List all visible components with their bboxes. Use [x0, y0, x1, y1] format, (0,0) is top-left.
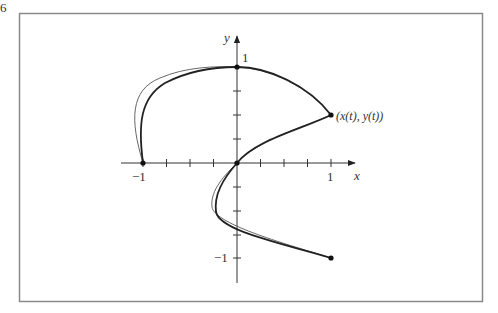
parametric-curve-figure: x y −1 1 1 −1 (x(t), y(t)) [0, 0, 498, 313]
point-neg1-0 [140, 160, 145, 165]
y-tick-label-neg1: −1 [214, 250, 228, 265]
point-1-neg1 [328, 255, 333, 260]
point-label: (x(t), y(t)) [336, 109, 383, 123]
point-origin [234, 160, 239, 165]
x-tick-label-neg1: −1 [132, 169, 146, 184]
approximation-curve [135, 67, 331, 258]
point-1-half [328, 112, 333, 117]
x-tick-label-1: 1 [327, 169, 334, 184]
y-axis-label: y [222, 30, 230, 45]
point-0-1 [234, 64, 239, 69]
y-tick-label-1: 1 [242, 50, 249, 65]
x-axis-label: x [353, 168, 360, 183]
figure-frame [20, 14, 483, 302]
